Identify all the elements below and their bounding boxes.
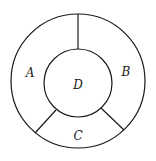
divider-lower-left — [35, 110, 56, 133]
divider-lower-right — [101, 108, 124, 130]
region-label-b: B — [121, 65, 131, 79]
region-diagram: A B C D — [0, 0, 156, 161]
region-label-c: C — [73, 129, 82, 143]
region-label-a: A — [25, 66, 35, 80]
region-label-d: D — [72, 78, 83, 92]
